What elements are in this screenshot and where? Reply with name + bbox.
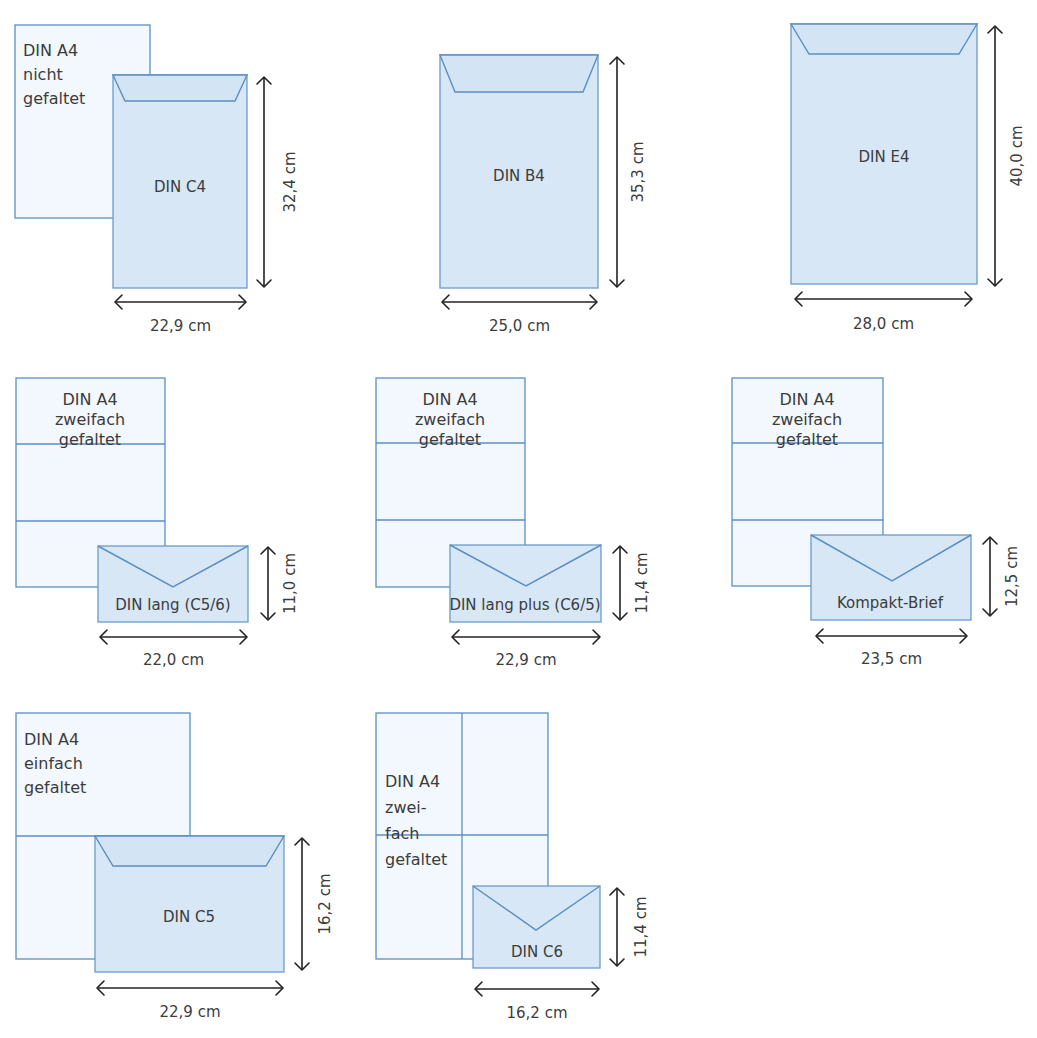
width-dimension: 22,9 cm [97, 981, 283, 1021]
a4-sheet-label-line: DIN A4 [24, 730, 79, 749]
panel-c6: DIN A4zwei-fachgefaltetDIN C616,2 cm11,4… [376, 713, 650, 1022]
width-dimension: 25,0 cm [442, 295, 597, 335]
height-value-label: 12,5 cm [1003, 546, 1021, 607]
width-value-label: 22,9 cm [150, 317, 211, 335]
a4-sheet-label-line: gefaltet [385, 850, 447, 869]
width-value-label: 22,0 cm [143, 651, 204, 669]
width-value-label: 23,5 cm [861, 650, 922, 668]
envelope-name-label: DIN C4 [154, 178, 206, 196]
envelope-flap-trapezoid [791, 24, 977, 54]
width-dimension: 22,0 cm [100, 630, 247, 669]
envelope-size-diagram: DIN A4nichtgefaltetDIN C422,9 cm32,4 cmD… [0, 0, 1037, 1038]
envelope: DIN B4 [440, 55, 598, 288]
panel-din-lang: DIN A4zweifachgefaltetDIN lang (C5/6)22,… [16, 378, 299, 669]
diagram-svg: DIN A4nichtgefaltetDIN C422,9 cm32,4 cmD… [0, 0, 1037, 1038]
envelope-name-label: DIN C5 [163, 908, 215, 926]
a4-sheet-label-line: DIN A4 [62, 390, 117, 409]
width-dimension: 22,9 cm [115, 295, 246, 335]
height-value-label: 11,0 cm [281, 553, 299, 614]
panel-c4: DIN A4nichtgefaltetDIN C422,9 cm32,4 cm [15, 25, 299, 335]
envelope: DIN E4 [791, 24, 977, 284]
a4-sheet-label-line: fach [385, 824, 419, 843]
a4-sheet-label-line: gefaltet [23, 89, 85, 108]
envelope-name-label: DIN lang plus (C6/5) [449, 596, 600, 614]
a4-sheet-label-line: zweifach [55, 410, 125, 429]
height-dimension: 11,0 cm [261, 547, 299, 620]
envelope-name-label: Kompakt-Brief [837, 594, 944, 612]
panel-b4: DIN B425,0 cm35,3 cm [440, 55, 647, 335]
height-dimension: 11,4 cm [610, 888, 650, 966]
envelope-flap-trapezoid [95, 836, 284, 866]
envelope: DIN C4 [113, 75, 247, 288]
height-value-label: 16,2 cm [316, 873, 334, 934]
height-value-label: 32,4 cm [281, 151, 299, 212]
a4-sheet-label-line: zwei- [385, 798, 427, 817]
envelope-name-label: DIN lang (C5/6) [115, 596, 230, 614]
a4-sheet-label-line: DIN A4 [385, 772, 440, 791]
width-value-label: 22,9 cm [159, 1003, 220, 1021]
width-value-label: 22,9 cm [495, 651, 556, 669]
height-dimension: 32,4 cm [257, 77, 299, 287]
a4-sheet-label-line: gefaltet [59, 430, 121, 449]
envelope: DIN lang (C5/6) [98, 546, 248, 622]
a4-sheet-label-line: nicht [23, 65, 63, 84]
panel-kompakt: DIN A4zweifachgefaltetKompakt-Brief23,5 … [732, 378, 1021, 668]
width-dimension: 22,9 cm [452, 630, 600, 669]
envelope-name-label: DIN B4 [493, 167, 545, 185]
envelope: DIN C6 [473, 886, 600, 968]
envelope-name-label: DIN E4 [859, 148, 910, 166]
height-value-label: 35,3 cm [629, 141, 647, 202]
panel-din-lang-plus: DIN A4zweifachgefaltetDIN lang plus (C6/… [376, 378, 651, 669]
height-value-label: 11,4 cm [632, 896, 650, 957]
a4-sheet-label-line: DIN A4 [422, 390, 477, 409]
a4-sheet-label-line: DIN A4 [23, 41, 78, 60]
panel-e4: DIN E428,0 cm40,0 cm [791, 24, 1026, 333]
envelope: DIN C5 [95, 836, 284, 972]
width-dimension: 28,0 cm [795, 292, 972, 333]
a4-sheet-label-line: zweifach [772, 410, 842, 429]
envelope: DIN lang plus (C6/5) [449, 545, 601, 622]
width-dimension: 23,5 cm [816, 629, 967, 668]
a4-sheet-label-line: zweifach [415, 410, 485, 429]
envelope-name-label: DIN C6 [511, 943, 563, 961]
a4-sheet-label-line: gefaltet [24, 778, 86, 797]
width-dimension: 16,2 cm [475, 982, 599, 1022]
height-dimension: 12,5 cm [983, 537, 1021, 616]
width-value-label: 28,0 cm [853, 315, 914, 333]
panel-c5: DIN A4einfachgefaltetDIN C522,9 cm16,2 c… [16, 713, 334, 1021]
height-dimension: 11,4 cm [613, 546, 651, 620]
height-value-label: 40,0 cm [1008, 125, 1026, 186]
height-dimension: 16,2 cm [295, 838, 334, 970]
a4-sheet-label-line: DIN A4 [779, 390, 834, 409]
a4-sheet-label-line: gefaltet [776, 430, 838, 449]
envelope-flap-trapezoid [440, 55, 598, 92]
envelope-flap-trapezoid [113, 75, 247, 101]
height-value-label: 11,4 cm [633, 552, 651, 613]
width-value-label: 25,0 cm [489, 317, 550, 335]
height-dimension: 35,3 cm [610, 57, 647, 287]
width-value-label: 16,2 cm [506, 1004, 567, 1022]
a4-sheet-label-line: gefaltet [419, 430, 481, 449]
envelope: Kompakt-Brief [811, 535, 971, 620]
height-dimension: 40,0 cm [988, 26, 1026, 286]
a4-sheet-label-line: einfach [24, 754, 83, 773]
